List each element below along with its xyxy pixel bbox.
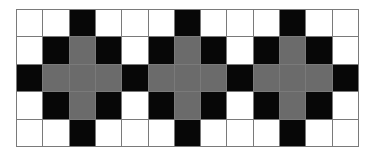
grid-cell-white-r0-c4	[122, 10, 147, 36]
grid-cell-black-r3-c1	[43, 92, 68, 118]
grid-cell-gray-r2-c9	[254, 65, 279, 91]
grid-cell-black-r4-c10	[280, 120, 305, 146]
grid-cell-white-r0-c5	[149, 10, 174, 36]
grid-cell-gray-r2-c1	[43, 65, 68, 91]
grid-cell-black-r1-c9	[254, 37, 279, 63]
grid-cell-gray-r2-c3	[96, 65, 121, 91]
grid-cell-black-r1-c7	[201, 37, 226, 63]
grid-cell-black-r3-c5	[149, 92, 174, 118]
grid-cell-black-r1-c11	[306, 37, 331, 63]
grid-cell-black-r3-c9	[254, 92, 279, 118]
grid-cell-white-r0-c12	[333, 10, 358, 36]
grid-cell-gray-r1-c2	[70, 37, 95, 63]
grid-cell-gray-r2-c5	[149, 65, 174, 91]
grid-cell-black-r1-c3	[96, 37, 121, 63]
grid-cell-white-r1-c8	[227, 37, 252, 63]
grid-cell-black-r2-c12	[333, 65, 358, 91]
grid-cell-gray-r2-c6	[175, 65, 200, 91]
grid-cell-gray-r3-c6	[175, 92, 200, 118]
grid-cell-white-r0-c7	[201, 10, 226, 36]
grid-cell-black-r4-c2	[70, 120, 95, 146]
grid-cell-gray-r2-c2	[70, 65, 95, 91]
grid-cell-white-r0-c3	[96, 10, 121, 36]
grid-cell-black-r0-c6	[175, 10, 200, 36]
grid-cell-gray-r3-c2	[70, 92, 95, 118]
grid-cell-black-r3-c3	[96, 92, 121, 118]
grid-cell-white-r4-c0	[17, 120, 42, 146]
grid-cell-gray-r2-c11	[306, 65, 331, 91]
grid-cell-gray-r3-c10	[280, 92, 305, 118]
grid-cell-white-r0-c11	[306, 10, 331, 36]
grid-cell-black-r3-c7	[201, 92, 226, 118]
grid-cell-white-r4-c11	[306, 120, 331, 146]
grid-cell-gray-r1-c10	[280, 37, 305, 63]
grid-cell-gray-r2-c10	[280, 65, 305, 91]
grid-cell-gray-r1-c6	[175, 37, 200, 63]
grid-cell-black-r1-c5	[149, 37, 174, 63]
grid-cell-black-r0-c2	[70, 10, 95, 36]
grid-cell-white-r4-c7	[201, 120, 226, 146]
grid-cell-white-r4-c12	[333, 120, 358, 146]
grid-cell-white-r4-c3	[96, 120, 121, 146]
grid-cell-white-r4-c1	[43, 120, 68, 146]
grid-cell-black-r2-c4	[122, 65, 147, 91]
grid-cell-black-r2-c0	[17, 65, 42, 91]
grid-cell-white-r0-c8	[227, 10, 252, 36]
grid-cell-white-r0-c0	[17, 10, 42, 36]
grid-cell-white-r4-c8	[227, 120, 252, 146]
grid-cell-white-r4-c9	[254, 120, 279, 146]
grid-cell-white-r4-c4	[122, 120, 147, 146]
grid-cell-white-r1-c12	[333, 37, 358, 63]
grid-cell-black-r4-c6	[175, 120, 200, 146]
grid-cell-gray-r2-c7	[201, 65, 226, 91]
grid-cell-white-r0-c9	[254, 10, 279, 36]
grid-cell-white-r0-c1	[43, 10, 68, 36]
grid-cell-white-r1-c4	[122, 37, 147, 63]
grid-cell-black-r2-c8	[227, 65, 252, 91]
grid-cell-white-r3-c0	[17, 92, 42, 118]
grid-cell-white-r3-c8	[227, 92, 252, 118]
grid-cell-white-r1-c0	[17, 37, 42, 63]
pattern-grid	[16, 9, 359, 147]
grid-cell-black-r3-c11	[306, 92, 331, 118]
grid-cell-black-r0-c10	[280, 10, 305, 36]
grid-cell-white-r3-c12	[333, 92, 358, 118]
grid-cell-white-r4-c5	[149, 120, 174, 146]
grid-cell-white-r3-c4	[122, 92, 147, 118]
grid-cell-black-r1-c1	[43, 37, 68, 63]
